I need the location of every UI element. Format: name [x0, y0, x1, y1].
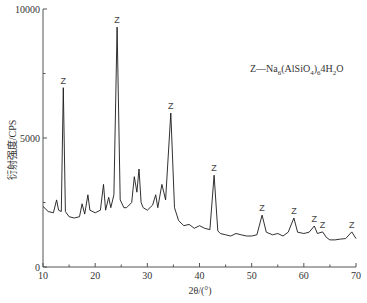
peak-label: Z — [259, 203, 265, 213]
x-tick-label: 50 — [247, 270, 257, 281]
xrd-chart: 102030405060700500010000 ZZZZZZZZZ 衍射强度/… — [0, 0, 367, 303]
x-axis-title: 2θ/(°) — [188, 285, 211, 297]
peak-label: Z — [114, 15, 120, 25]
peak-label: Z — [211, 163, 217, 173]
legend: Z—Na6(AlSiO4)64H2O — [250, 63, 344, 77]
peak-label: Z — [312, 214, 318, 224]
x-tick-label: 40 — [195, 270, 205, 281]
x-tick-label: 60 — [299, 270, 309, 281]
peak-label: Z — [349, 220, 355, 230]
y-tick-label: 10000 — [15, 4, 40, 15]
x-tick-label: 30 — [142, 270, 152, 281]
peak-label: Z — [61, 76, 67, 86]
peak-label: Z — [320, 220, 326, 230]
axes: 102030405060700500010000 — [15, 4, 361, 282]
xrd-line — [43, 27, 356, 240]
peak-label: Z — [168, 101, 174, 111]
x-tick-label: 70 — [351, 270, 361, 281]
y-tick-label: 5000 — [20, 133, 40, 144]
x-tick-label: 20 — [90, 270, 100, 281]
peak-label: Z — [291, 206, 297, 216]
y-tick-label: 0 — [35, 262, 40, 273]
y-axis-title: 衍射强度/CPS — [6, 120, 18, 181]
